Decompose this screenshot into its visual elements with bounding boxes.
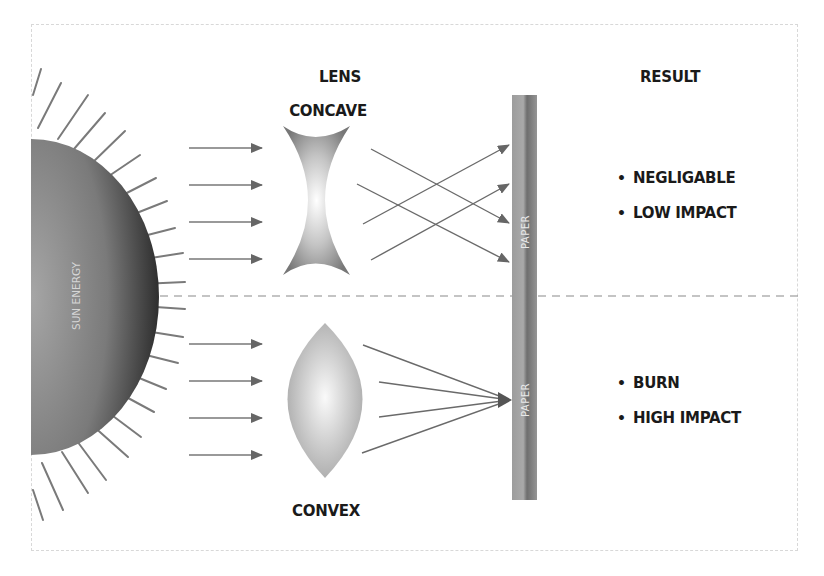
convex-result-list: •BURN •HIGH IMPACT — [617, 373, 741, 443]
result-item: •LOW IMPACT — [617, 203, 737, 238]
bullet-icon: • — [617, 203, 633, 223]
paper-strip — [512, 95, 537, 500]
paper-label-bottom: PAPER — [520, 383, 531, 417]
bullet-icon: • — [617, 373, 633, 393]
incoming-rays-bottom — [189, 344, 262, 455]
convex-label: CONVEX — [278, 502, 374, 520]
bullet-icon: • — [617, 168, 633, 188]
sun-energy-label: SUN ENERGY — [70, 261, 82, 330]
converging-rays — [362, 345, 510, 453]
optics-diagram: PAPER PAPER SUN ENERGY — [0, 0, 824, 576]
incoming-rays-top — [189, 148, 262, 259]
result-item: •BURN — [617, 373, 741, 408]
convex-lens — [288, 323, 363, 478]
lens-header: LENS — [300, 68, 380, 86]
result-item: •NEGLIGABLE — [617, 168, 737, 203]
concave-lens — [283, 126, 350, 275]
concave-result-list: •NEGLIGABLE •LOW IMPACT — [617, 168, 737, 238]
focus-arrowhead — [498, 392, 512, 408]
bullet-icon: • — [617, 408, 633, 428]
paper-label-top: PAPER — [520, 215, 531, 249]
result-item: •HIGH IMPACT — [617, 408, 741, 443]
result-header: RESULT — [640, 68, 700, 86]
concave-label: CONCAVE — [278, 102, 378, 120]
diverging-rays — [357, 145, 509, 262]
